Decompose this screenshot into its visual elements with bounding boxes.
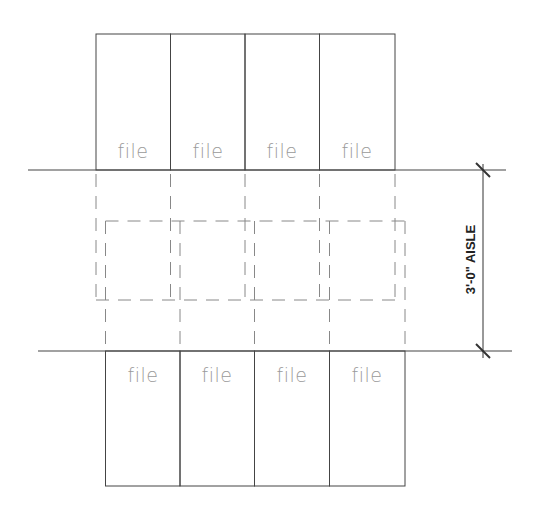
top-cabinet-label: file [193, 140, 224, 162]
aisle-dimension-label: 3'-0" AISLE [463, 210, 478, 310]
top-cabinet-label: file [342, 140, 373, 162]
top-cabinet-label: file [118, 140, 149, 162]
bottom-cabinet-label: file [352, 364, 383, 386]
top-cabinet-label: file [267, 140, 298, 162]
bottom-drawer-projection [106, 221, 406, 347]
aisle-diagram [0, 0, 540, 518]
bottom-cabinet-label: file [128, 364, 159, 386]
aisle-dimension [476, 163, 490, 358]
bottom-cabinet-label: file [277, 364, 308, 386]
drawing-canvas: file file file file file file file file … [0, 0, 540, 518]
top-drawer-projection [96, 174, 395, 300]
bottom-cabinet-label: file [202, 364, 233, 386]
